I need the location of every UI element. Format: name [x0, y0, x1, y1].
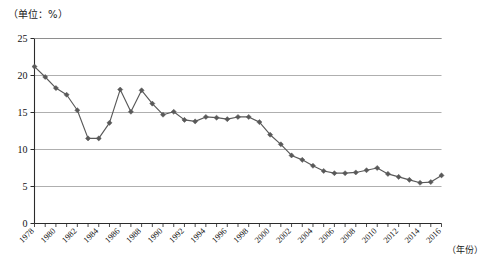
axes-group — [35, 39, 442, 224]
data-point-marker — [225, 117, 230, 122]
x-tick-label: 2006 — [317, 226, 336, 245]
data-point-marker — [364, 168, 369, 173]
series-polyline-group — [35, 67, 442, 183]
data-point-marker — [214, 115, 219, 120]
data-point-marker — [203, 114, 208, 119]
y-tick-label: 15 — [18, 107, 28, 118]
data-point-marker — [396, 174, 401, 179]
data-point-marker — [118, 87, 123, 92]
y-tick-label: 20 — [18, 70, 28, 81]
y-tick-label: 5 — [23, 181, 28, 192]
x-axis-labels-group: 1978198019821984198619881990199219941996… — [17, 225, 443, 245]
data-point-marker — [246, 114, 251, 119]
data-point-marker — [418, 180, 423, 185]
gridlines-group — [35, 39, 442, 187]
data-point-marker — [385, 171, 390, 176]
x-tick-label: 1990 — [145, 226, 164, 245]
data-point-marker — [343, 171, 348, 176]
x-tick-label: 1996 — [210, 226, 229, 245]
x-tick-label: 1994 — [188, 225, 208, 245]
x-tick-label: 1980 — [38, 226, 57, 245]
data-point-marker — [375, 165, 380, 170]
x-tick-label: 1988 — [124, 226, 143, 245]
x-tick-label: 1998 — [231, 226, 250, 245]
line-chart-plot: 1978198019821984198619881990199219941996… — [0, 0, 486, 275]
y-tick-label: 10 — [18, 144, 28, 155]
data-point-marker — [321, 168, 326, 173]
y-tick-label: 0 — [23, 218, 28, 229]
x-tick-label: 2014 — [402, 225, 422, 245]
series-polyline — [35, 67, 442, 183]
data-point-marker — [353, 170, 358, 175]
x-tick-label: 1986 — [103, 226, 122, 245]
x-tick-label: 1984 — [81, 225, 101, 245]
x-tick-label: 2016 — [424, 226, 443, 245]
chart-container: （单位：%） （年份） 1978198019821984198619881990… — [0, 0, 486, 275]
series-markers-group — [32, 64, 444, 185]
data-point-marker — [300, 157, 305, 162]
data-point-marker — [235, 114, 240, 119]
x-tick-label: 2004 — [295, 225, 315, 245]
x-tick-label: 2008 — [338, 226, 357, 245]
x-tick-label: 1992 — [167, 226, 186, 245]
data-point-marker — [86, 136, 91, 141]
y-axis-labels-group: 0510152025 — [18, 33, 28, 229]
x-tick-label: 2012 — [381, 226, 400, 245]
y-tick-label: 25 — [18, 33, 28, 44]
x-tick-label: 2000 — [252, 226, 271, 245]
x-tick-label: 1982 — [60, 226, 79, 245]
data-point-marker — [407, 177, 412, 182]
x-tick-label: 2010 — [360, 226, 379, 245]
x-tick-label: 2002 — [274, 226, 293, 245]
data-point-marker — [193, 119, 198, 124]
data-point-marker — [310, 163, 315, 168]
data-point-marker — [332, 171, 337, 176]
data-point-marker — [128, 109, 133, 114]
